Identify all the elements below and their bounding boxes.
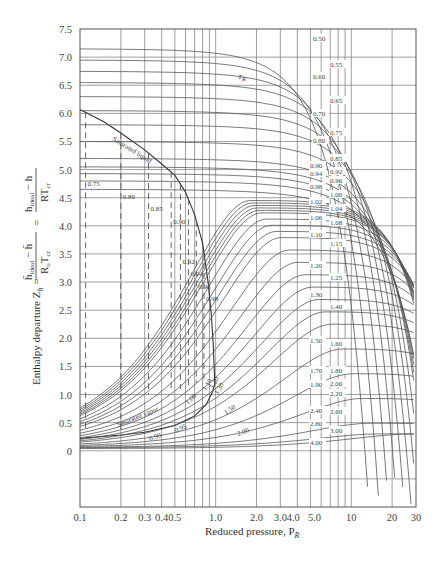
y-tick-label: 4.5 bbox=[59, 193, 72, 204]
y-tick-label: 4.0 bbox=[59, 221, 72, 232]
isotherm-label: 0.65 bbox=[330, 97, 343, 105]
vapor-isotherm-label: 2.00 bbox=[236, 426, 251, 438]
x-tick-label: 10 bbox=[346, 512, 357, 523]
isotherm-label: 1.70 bbox=[310, 367, 323, 375]
x-tick-label: 20 bbox=[387, 512, 398, 523]
y-tick-label: 3.5 bbox=[59, 249, 72, 260]
saturated-liquid-label: Saturated liquid bbox=[111, 135, 153, 166]
liquid-isotherm-label: 0.90 bbox=[173, 218, 186, 226]
y-tick-label: 0.5 bbox=[59, 418, 72, 429]
isotherm-1.50 bbox=[80, 262, 414, 433]
isotherm-label: 1.30 bbox=[310, 291, 323, 299]
y-tick-label: 7.5 bbox=[59, 24, 72, 35]
isotherm-label: 0.85 bbox=[330, 155, 343, 163]
isotherm-label: 2.40 bbox=[310, 407, 323, 415]
x-tick-label: 0.5 bbox=[168, 512, 181, 523]
isotherm-label: 1.20 bbox=[310, 262, 323, 270]
isotherm-label: 1.25 bbox=[330, 274, 343, 282]
svg-text:RuTcr: RuTcr bbox=[38, 250, 52, 274]
liquid-isotherm-label: 0.75 bbox=[88, 180, 101, 188]
liquid-isotherm-label: 0.80 bbox=[123, 193, 136, 201]
y-tick-label: 5.0 bbox=[59, 165, 72, 176]
isotherm-curves: 0.750.800.850.900.920.940.960.980.500.55… bbox=[80, 34, 414, 504]
y-tick-label: 0 bbox=[67, 446, 72, 457]
isotherm-label: 1.90 bbox=[310, 381, 323, 389]
isotherm-0.80 bbox=[80, 125, 414, 464]
vapor-isotherm-label: 0.90 bbox=[148, 431, 163, 443]
vapor-isotherm-label: 0.95 bbox=[173, 422, 188, 435]
y-tick-label: 6.5 bbox=[59, 80, 72, 91]
isotherm-label: 0.90 bbox=[310, 162, 323, 170]
isotherm-label: 1.02 bbox=[310, 198, 323, 206]
isotherm-label: 3.00 bbox=[330, 427, 343, 435]
isotherm-label: 2.60 bbox=[330, 408, 343, 416]
svg-text:RTcr: RTcr bbox=[38, 182, 52, 202]
x-tick-label: 2.0 bbox=[250, 512, 263, 523]
isotherm-label: 1.08 bbox=[330, 219, 343, 227]
isotherm-label: 1.15 bbox=[330, 240, 343, 248]
liquid-isotherm-label: 0.96 bbox=[198, 283, 211, 291]
x-tick-label: 5.0 bbox=[308, 512, 321, 523]
y-tick-label: 1.0 bbox=[59, 390, 72, 401]
isotherm-label: 1.06 bbox=[310, 214, 323, 222]
y-tick-label: 1.5 bbox=[59, 361, 72, 372]
isotherm-label: 1.04 bbox=[330, 205, 343, 213]
y-tick-label: 2.0 bbox=[59, 333, 72, 344]
isotherm-label: 1.60 bbox=[330, 340, 343, 348]
isotherm-label: 0.60 bbox=[313, 73, 326, 81]
isotherm-label: 1.00 bbox=[330, 191, 343, 199]
isotherm-label: 0.50 bbox=[313, 35, 326, 43]
x-tick-label: 30 bbox=[411, 512, 422, 523]
svg-text:hideal − h: hideal − h bbox=[22, 175, 36, 212]
saturated-vapor-label: Saturated vapor bbox=[116, 405, 161, 429]
isotherm-label: 1.10 bbox=[310, 231, 323, 239]
isotherm-label: 1.50 bbox=[310, 337, 323, 345]
isotherm-label: 0.92 bbox=[330, 168, 343, 176]
liquid-isotherm-label: 0.98 bbox=[206, 295, 219, 303]
y-tick-label: 5.5 bbox=[59, 136, 72, 147]
isotherm-label: 2.80 bbox=[310, 420, 323, 428]
isotherm-label: 1.40 bbox=[330, 303, 343, 311]
isotherm-1.10 bbox=[80, 213, 414, 416]
tr-parameter-label: TR bbox=[238, 73, 246, 82]
x-tick-label: 0.3 bbox=[138, 512, 151, 523]
isotherm-label: 0.94 bbox=[310, 170, 323, 178]
x-axis-label: Reduced pressure, PR bbox=[205, 525, 300, 540]
y-tick-label: 7.0 bbox=[59, 52, 72, 63]
isotherm-label: 0.55 bbox=[330, 61, 343, 69]
y-tick-label: 3.0 bbox=[59, 277, 72, 288]
y-axis-label: Enthalpy departure Zh = h̄ideal − h̄ RuT… bbox=[22, 168, 52, 385]
isotherm-label: 2.20 bbox=[330, 390, 343, 398]
x-tick-label: 0.2 bbox=[114, 512, 127, 523]
x-tick-label: 3.0 bbox=[274, 512, 287, 523]
isotherm-label: 4.00 bbox=[310, 439, 323, 447]
isotherm-label: 2.00 bbox=[330, 380, 343, 388]
y-tick-label: 2.5 bbox=[59, 305, 72, 316]
isotherm-label: 0.98 bbox=[310, 183, 323, 191]
svg-text:h̄ideal − h̄: h̄ideal − h̄ bbox=[22, 243, 36, 280]
x-tick-label: 0.1 bbox=[73, 512, 86, 523]
liquid-isotherm-label: 0.85 bbox=[151, 205, 164, 213]
isotherm-label: 1.80 bbox=[330, 367, 343, 375]
x-tick-label: 0.4 bbox=[155, 512, 169, 523]
enthalpy-departure-chart: 0.750.800.850.900.920.940.960.980.500.55… bbox=[0, 0, 444, 570]
isotherm-label: 0.96 bbox=[330, 177, 343, 185]
svg-text:Enthalpy departure Zh =: Enthalpy departure Zh = bbox=[30, 279, 45, 385]
vapor-isotherm-label: 1.50 bbox=[223, 403, 238, 417]
isotherm-1.15 bbox=[80, 219, 414, 419]
y-tick-label: 6.0 bbox=[59, 108, 72, 119]
isotherm-label: 0.75 bbox=[330, 129, 343, 137]
svg-text:=: = bbox=[30, 220, 42, 226]
isotherm-label: 0.80 bbox=[313, 137, 326, 145]
isotherm-label: 0.70 bbox=[313, 110, 326, 118]
x-tick-label: 1.0 bbox=[209, 512, 222, 523]
x-tick-label: 4.0 bbox=[287, 512, 300, 523]
